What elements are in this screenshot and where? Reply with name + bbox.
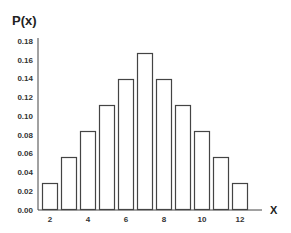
chart: P(x) X 0.000.020.040.060.080.100.120.140… <box>0 0 291 233</box>
bar-x-3 <box>62 158 77 210</box>
y-axis-title: P(x) <box>12 13 37 28</box>
bar-x-8 <box>157 80 172 210</box>
y-tick-label: 0.18 <box>17 37 33 46</box>
bar-x-7 <box>138 54 153 210</box>
y-tick-label: 0.00 <box>17 206 33 215</box>
y-tick-label: 0.10 <box>17 112 33 121</box>
bar-x-5 <box>100 106 115 210</box>
bar-x-10 <box>195 132 210 210</box>
y-tick-label: 0.12 <box>17 93 33 102</box>
x-tick-label: 2 <box>48 215 53 224</box>
bars <box>43 54 248 210</box>
x-axis-title: X <box>270 204 278 216</box>
y-tick-label: 0.06 <box>17 149 33 158</box>
y-tick-label: 0.04 <box>17 168 33 177</box>
y-tick-label: 0.16 <box>17 56 33 65</box>
x-tick-label: 10 <box>198 215 207 224</box>
x-ticks: 24681012 <box>48 215 245 224</box>
x-tick-label: 8 <box>162 215 167 224</box>
bar-x-11 <box>214 158 229 210</box>
y-tick-label: 0.02 <box>17 187 33 196</box>
y-ticks: 0.000.020.040.060.080.100.120.140.160.18 <box>17 37 33 215</box>
y-tick-label: 0.14 <box>17 74 33 83</box>
x-tick-label: 4 <box>86 215 91 224</box>
bar-x-9 <box>176 106 191 210</box>
y-tick-label: 0.08 <box>17 131 33 140</box>
bar-x-6 <box>119 80 134 210</box>
x-tick-label: 12 <box>236 215 245 224</box>
x-tick-label: 6 <box>124 215 129 224</box>
bar-x-4 <box>81 132 96 210</box>
bar-x-2 <box>43 184 58 210</box>
bar-x-12 <box>233 184 248 210</box>
